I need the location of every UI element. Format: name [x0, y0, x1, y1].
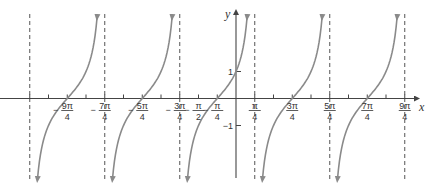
x-tick-label: −3π4 [165, 101, 185, 122]
x-tick-label: 3π4 [286, 101, 298, 122]
numerator: π [252, 101, 258, 111]
x-tick-label: −5π4 [128, 101, 148, 122]
tick-labels: 1−1xy−9π4−7π4−5π4−3π4−π2−π4π43π45π47π49π… [53, 7, 425, 131]
denominator: 4 [140, 112, 145, 122]
numerator: 7π [99, 101, 110, 111]
numerator: 5π [324, 101, 335, 111]
x-axis-label: x [418, 100, 425, 114]
tangent-graph: 1−1xy−9π4−7π4−5π4−3π4−π2−π4π43π45π47π49π… [0, 0, 426, 183]
x-tick-label: −9π4 [53, 101, 73, 122]
numerator: 7π [362, 101, 373, 111]
numerator: 9π [399, 101, 410, 111]
denominator: 4 [402, 112, 407, 122]
numerator: π [195, 101, 201, 111]
minus-sign: − [203, 105, 208, 115]
x-tick-label: 9π4 [399, 101, 411, 122]
minus-sign: − [128, 105, 133, 115]
numerator: π [214, 101, 220, 111]
minus-sign: − [184, 105, 189, 115]
x-tick-label: −7π4 [90, 101, 110, 122]
denominator: 2 [196, 112, 201, 122]
plot-area: 1−1xy−9π4−7π4−5π4−3π4−π2−π4π43π45π47π49π… [0, 0, 426, 183]
x-tick-label: 5π4 [324, 101, 336, 122]
numerator: 5π [137, 101, 148, 111]
denominator: 4 [65, 112, 70, 122]
y-tick-label: 1 [228, 67, 233, 77]
x-tick-label: 7π4 [361, 101, 373, 122]
minus-sign: − [53, 105, 58, 115]
denominator: 4 [215, 112, 220, 122]
minus-sign: − [90, 105, 95, 115]
minus-sign: − [165, 105, 170, 115]
denominator: 4 [327, 112, 332, 122]
denominator: 4 [177, 112, 182, 122]
numerator: 9π [62, 101, 73, 111]
denominator: 4 [102, 112, 107, 122]
denominator: 4 [290, 112, 295, 122]
axes [0, 12, 417, 178]
denominator: 4 [252, 112, 257, 122]
x-tick-label: π4 [249, 101, 261, 122]
y-tick-label: −1 [223, 121, 233, 131]
numerator: 3π [287, 101, 298, 111]
y-axis-label: y [224, 7, 231, 21]
denominator: 4 [365, 112, 370, 122]
